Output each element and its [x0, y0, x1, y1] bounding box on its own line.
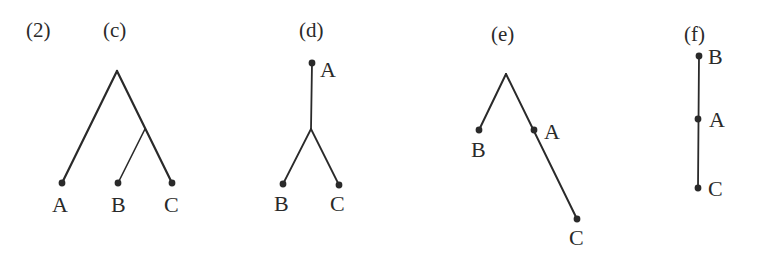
panel-c-label: (c) [103, 18, 126, 42]
panel-f: (f) B A C [684, 22, 725, 201]
node-c-label: C [569, 225, 584, 250]
panel-f-label: (f) [684, 22, 705, 46]
node-a [531, 127, 538, 134]
node-a [309, 60, 316, 67]
edge-root-a [62, 71, 117, 183]
edge-internal-c [311, 129, 339, 185]
node-c [695, 185, 702, 192]
node-c-label: C [330, 191, 345, 216]
node-a-label: A [52, 192, 68, 217]
node-a-label: A [709, 107, 725, 132]
node-a [695, 116, 702, 123]
node-c [574, 216, 581, 223]
node-a-label: A [320, 57, 336, 82]
panel-d: (d) A B C [274, 18, 345, 216]
figure-number: (2) [26, 18, 51, 42]
panel-d-label: (d) [299, 18, 324, 42]
node-a [59, 180, 66, 187]
node-b-label: B [274, 191, 289, 216]
node-b [696, 53, 703, 60]
tree-diagrams: (2) (c) A B C (d) A B C (e) B A C [0, 0, 759, 257]
node-c-label: C [164, 192, 179, 217]
node-c [336, 182, 343, 189]
edge-root-c [117, 71, 172, 183]
panel-e-label: (e) [491, 22, 514, 46]
edge-internal-b [283, 129, 311, 184]
node-c [169, 180, 176, 187]
node-b [280, 181, 287, 188]
edge-apex-b [479, 74, 506, 130]
panel-c: (c) A B C [52, 18, 179, 217]
node-b-label: B [708, 44, 723, 69]
panel-e: (e) B A C [471, 22, 584, 250]
node-c-label: C [708, 176, 723, 201]
edge-apex-c [506, 74, 577, 219]
node-b [115, 180, 122, 187]
node-b [476, 127, 483, 134]
edge-a-internal [311, 63, 312, 129]
node-a-label: A [544, 119, 560, 144]
node-b-label: B [111, 192, 126, 217]
node-b-label: B [471, 137, 486, 162]
edge-internal-b [118, 129, 145, 183]
